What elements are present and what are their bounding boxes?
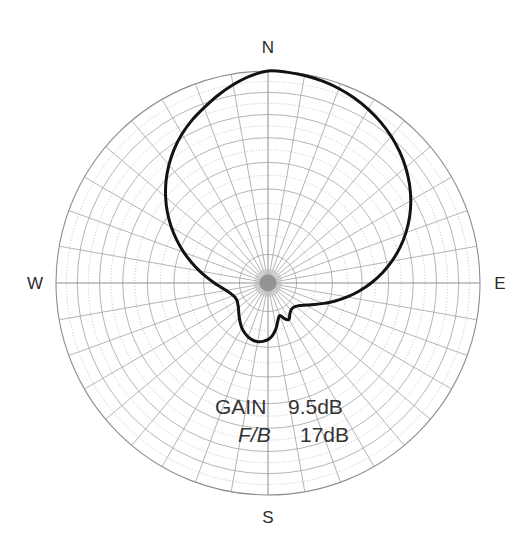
center-hub-inner (260, 275, 277, 292)
center-hub (254, 269, 282, 297)
front-to-back-value: 17dB (300, 423, 349, 446)
cardinal-label-e: E (494, 274, 505, 293)
polar-radiation-pattern-chart: NESW GAIN 9.5dB F/B 17dB (0, 0, 531, 555)
cardinal-label-n: N (262, 38, 274, 57)
gain-label: GAIN (215, 395, 266, 418)
cardinal-label-s: S (262, 508, 273, 527)
gain-value: 9.5dB (288, 395, 343, 418)
polar-plot-canvas: NESW GAIN 9.5dB F/B 17dB (0, 0, 531, 555)
front-to-back-label: F/B (238, 423, 271, 446)
cardinal-label-w: W (27, 274, 43, 293)
